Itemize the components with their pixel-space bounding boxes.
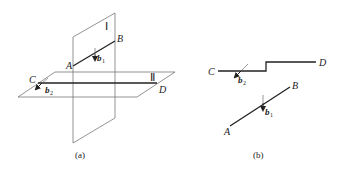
point-a-label: A: [223, 126, 231, 137]
figure-b: C D A B b 2 b 1 (b): [208, 57, 327, 160]
vector-b2-sub: 2: [50, 90, 53, 96]
point-c-label: C: [29, 74, 36, 85]
point-b-label: B: [117, 33, 123, 44]
point-a-label: A: [65, 60, 73, 71]
point-d-label: D: [158, 84, 167, 95]
point-d-label: D: [318, 57, 327, 68]
plane-1-label: Ⅰ: [105, 20, 108, 32]
line-cd: [218, 62, 316, 71]
vector-b1-sub: 1: [270, 112, 273, 118]
diagram-canvas: Ⅰ Ⅱ A B C D b 1 b 2 (a) C D A B b 2 b 1 …: [0, 0, 343, 169]
point-b-label: B: [292, 80, 298, 91]
vector-b2-stub: [241, 64, 248, 71]
plane-1: [73, 13, 115, 143]
caption-a: (a): [75, 150, 85, 160]
figure-a: Ⅰ Ⅱ A B C D b 1 b 2 (a): [18, 13, 175, 160]
line-ab: [73, 41, 115, 66]
vector-b2-sub: 2: [243, 80, 246, 86]
line-ab: [230, 87, 290, 126]
point-c-label: C: [208, 66, 215, 77]
vector-b1-sub: 1: [102, 58, 105, 64]
plane-2-label: Ⅱ: [150, 71, 155, 83]
caption-b: (b): [253, 150, 264, 160]
